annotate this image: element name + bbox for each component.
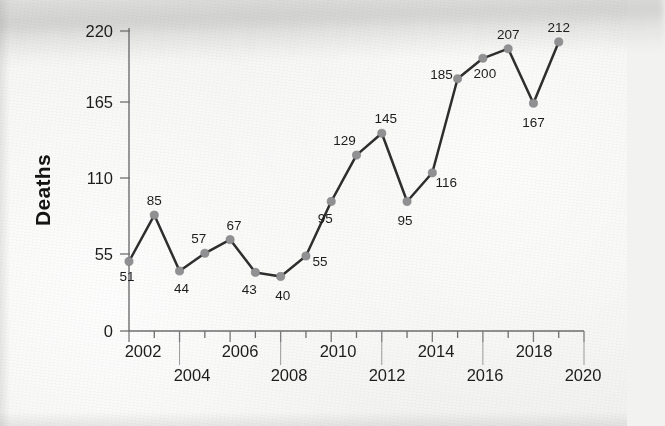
data-point-marker	[454, 75, 462, 83]
data-point-label: 55	[312, 254, 327, 269]
data-point-label: 51	[119, 269, 134, 284]
data-point-label: 207	[497, 27, 520, 42]
data-point-marker	[504, 45, 512, 53]
data-point-marker	[529, 99, 537, 107]
x-tick-label-2016: 2016	[467, 366, 504, 384]
data-point-marker	[150, 211, 158, 219]
y-tick-label-55: 55	[95, 245, 113, 263]
data-point-label: 43	[242, 282, 257, 297]
data-point-marker	[125, 257, 133, 265]
y-tick-label-165: 165	[85, 93, 113, 111]
data-point-label: 145	[375, 111, 398, 126]
axis-lines	[129, 28, 584, 331]
data-point-label: 67	[227, 218, 242, 233]
data-point-label: 95	[318, 211, 333, 226]
data-point-label: 129	[333, 133, 356, 148]
data-point-label: 212	[547, 20, 570, 35]
x-tick-label-2004: 2004	[174, 366, 211, 384]
data-point-marker	[226, 236, 234, 244]
data-point-marker	[251, 268, 259, 276]
x-tick-label-2020: 2020	[565, 366, 602, 384]
x-tick-label-2006: 2006	[222, 342, 259, 360]
data-point-marker	[479, 54, 487, 62]
x-tick-label-2018: 2018	[516, 342, 553, 360]
data-point-marker	[201, 249, 209, 257]
x-tick-label-2014: 2014	[418, 342, 455, 360]
data-point-label: 95	[398, 213, 413, 228]
deaths-point-labels: 5185445767434055951291459511618520020716…	[119, 20, 570, 304]
data-point-label: 200	[474, 66, 497, 81]
x-tick-marks	[129, 331, 584, 342]
y-axis-title: Deaths	[31, 154, 54, 226]
data-point-marker	[302, 252, 310, 260]
data-point-label: 167	[522, 115, 545, 130]
data-point-marker	[352, 151, 360, 159]
data-point-marker	[403, 197, 411, 205]
y-tick-label-110: 110	[87, 169, 113, 187]
data-point-label: 185	[430, 67, 453, 82]
data-point-marker	[277, 272, 285, 280]
y-tick-label-220: 220	[85, 22, 113, 40]
data-point-label: 40	[275, 288, 290, 303]
data-point-marker	[378, 129, 386, 137]
x-tick-label-2012: 2012	[369, 366, 406, 384]
data-point-marker	[555, 38, 563, 46]
data-point-label: 44	[174, 281, 190, 296]
data-point-label: 116	[436, 175, 458, 190]
x-tick-label-2002: 2002	[125, 342, 162, 360]
y-tick-label-0: 0	[104, 322, 113, 340]
data-point-marker	[175, 267, 183, 275]
data-point-label: 85	[147, 193, 162, 208]
data-point-label: 57	[191, 231, 206, 246]
x-tick-label-2010: 2010	[320, 342, 357, 360]
data-point-marker	[327, 197, 335, 205]
x-tick-label-2008: 2008	[271, 366, 308, 384]
